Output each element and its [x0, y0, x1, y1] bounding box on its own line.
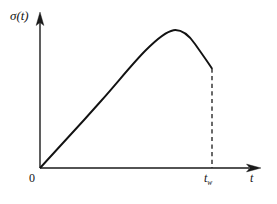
y-axis-label: σ(t) — [10, 9, 29, 22]
figure-container: σ(t) 0 tw t — [0, 0, 277, 204]
sigma-curve — [41, 30, 212, 167]
t-w-tick-label: tw — [204, 172, 212, 187]
t-w-subscript-text: w — [207, 178, 212, 187]
origin-label: 0 — [29, 172, 35, 184]
origin-label-text: 0 — [29, 171, 35, 185]
y-axis-label-text: σ(t) — [10, 8, 29, 23]
x-axis-label-text: t — [250, 171, 253, 185]
x-axis-label: t — [250, 172, 253, 184]
plot-canvas — [0, 0, 277, 204]
